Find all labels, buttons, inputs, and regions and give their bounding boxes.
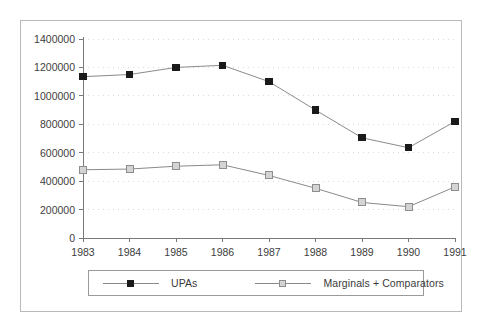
legend-item-marginals-comparators: Marginals + Comparators — [255, 271, 443, 295]
y-axis-tick-label: 0 — [69, 232, 75, 244]
chart-legend: UPAs Marginals + Comparators — [88, 270, 424, 296]
chart-figure: 0200000400000600000800000100000012000001… — [0, 0, 488, 331]
legend-item-upas: UPAs — [103, 271, 197, 295]
data-point-marker — [80, 73, 86, 79]
x-axis-tick-label: 1985 — [164, 246, 188, 258]
data-point-marker — [312, 185, 319, 192]
legend-label-upas: UPAs — [171, 277, 197, 289]
legend-line-marginals — [255, 279, 311, 288]
data-point-marker — [219, 62, 225, 68]
y-axis-tick-label: 800000 — [40, 118, 75, 130]
y-axis-tick-label: 1200000 — [34, 61, 75, 73]
data-point-marker — [405, 203, 412, 210]
data-point-marker — [266, 172, 273, 179]
y-axis-tick-label: 1400000 — [34, 33, 75, 45]
series-line — [83, 165, 455, 207]
x-axis-tick-label: 1987 — [257, 246, 281, 258]
x-axis-tick-label: 1990 — [397, 246, 421, 258]
data-point-marker — [405, 145, 411, 151]
y-axis-tick-label: 200000 — [40, 204, 75, 216]
legend-line-upas — [103, 279, 159, 288]
y-axis-tick-label: 600000 — [40, 147, 75, 159]
x-axis-tick-label: 1991 — [443, 246, 467, 258]
data-point-marker — [80, 166, 87, 173]
data-point-marker — [452, 183, 459, 190]
data-point-marker — [266, 78, 272, 84]
data-point-marker — [359, 135, 365, 141]
data-point-marker — [219, 161, 226, 168]
series-line — [83, 65, 455, 147]
data-point-marker — [359, 199, 366, 206]
data-point-marker — [312, 107, 318, 113]
open-square-marker-icon — [279, 280, 286, 287]
data-point-marker — [173, 64, 179, 70]
x-axis-tick-label: 1988 — [304, 246, 328, 258]
x-axis-tick-label: 1984 — [118, 246, 142, 258]
filled-square-marker-icon — [127, 280, 134, 287]
x-axis-tick-label: 1986 — [211, 246, 235, 258]
x-axis-tick-label: 1989 — [350, 246, 374, 258]
data-point-marker — [126, 166, 133, 173]
data-point-marker — [126, 71, 132, 77]
x-axis-tick-label: 1983 — [71, 246, 95, 258]
y-axis-tick-label: 400000 — [40, 175, 75, 187]
data-point-marker — [452, 118, 458, 124]
y-axis-tick-label: 1000000 — [34, 90, 75, 102]
data-point-marker — [173, 163, 180, 170]
legend-label-marginals-comparators: Marginals + Comparators — [323, 277, 443, 289]
